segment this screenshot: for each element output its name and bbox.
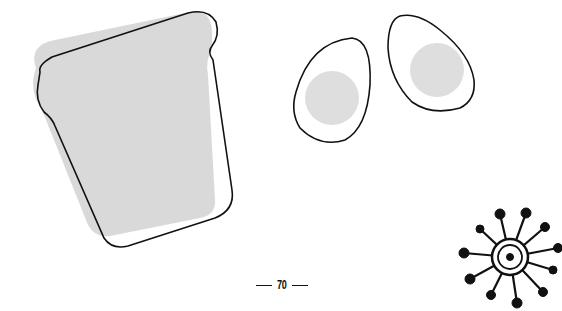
dash-right (292, 285, 308, 286)
egg-left-yolk (305, 71, 359, 125)
page-number-text: 70 (277, 277, 286, 292)
toast-fill (33, 11, 215, 236)
egg-right-icon (388, 15, 474, 111)
egg-right-yolk (410, 43, 464, 97)
sun-burst-icon (459, 208, 562, 308)
toast-icon (33, 11, 232, 247)
page-number: 70 (252, 277, 312, 292)
illustration-canvas (0, 0, 562, 311)
dash-left (256, 285, 272, 286)
egg-left-icon (294, 38, 370, 142)
